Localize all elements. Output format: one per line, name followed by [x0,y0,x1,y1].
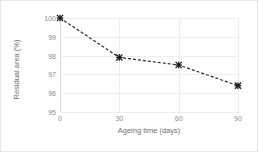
gridline-vertical [238,18,239,112]
data-point-marker [175,62,182,69]
plot-area [60,18,238,112]
y-axis-tick-label: 95 [48,109,56,116]
x-axis-tick-label: 30 [115,115,123,122]
data-point-marker [235,82,242,89]
y-axis-tick-label: 98 [48,52,56,59]
x-axis-tick-label: 90 [234,115,242,122]
x-axis-tick-label: 0 [58,115,62,122]
y-axis-tick-label: 99 [48,33,56,40]
x-axis-title: Ageing time (days) [60,126,238,135]
y-axis-tick-label: 97 [48,71,56,78]
series-polyline [60,18,238,86]
y-axis-tick-label: 100 [44,15,56,22]
y-axis-tick-label: 96 [48,90,56,97]
y-axis-tick-labels: 9596979899100 [1,18,56,112]
gridline-horizontal [60,112,238,113]
x-axis-tick-label: 60 [175,115,183,122]
data-point-marker [57,15,64,22]
chart-container: 9596979899100 0306090 Residual area (%) … [0,0,258,152]
series-line-residual-area [60,18,238,112]
y-axis-title: Residual area (%) [12,15,21,125]
data-point-marker [116,54,123,61]
